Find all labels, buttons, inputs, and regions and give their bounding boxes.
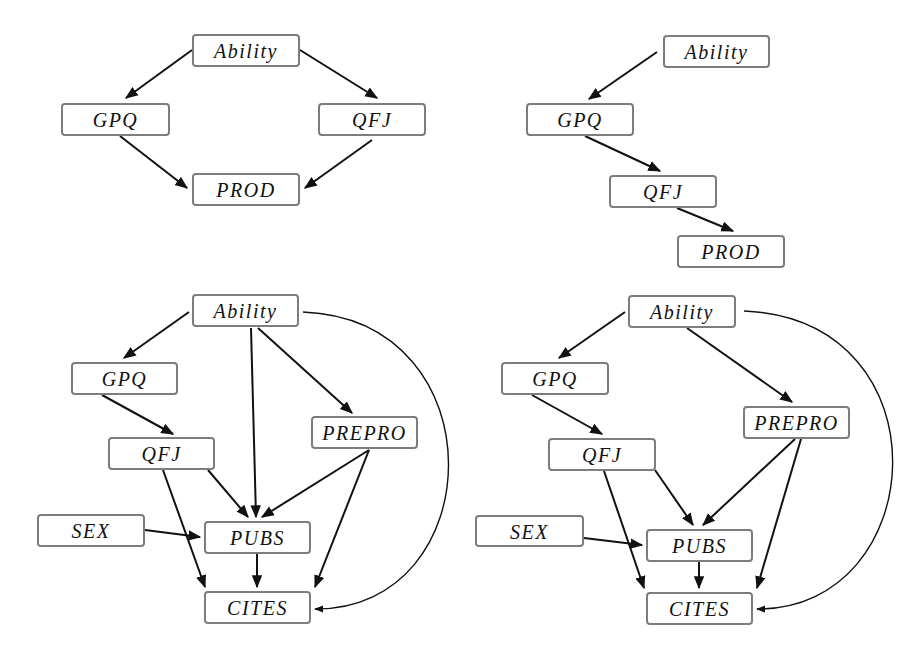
edge-ability-to-gpq-arrow-icon	[559, 312, 625, 358]
edge-prepro-to-pubs-arrow-icon	[703, 439, 795, 525]
edge-gpq-to-qfj-arrow-icon	[532, 395, 602, 434]
node-qfj: QFJ	[548, 438, 656, 471]
edge-qfj-to-pubs-arrow-icon	[655, 470, 693, 525]
node-sex: SEX	[475, 515, 584, 547]
node-label: PREPRO	[754, 413, 839, 433]
node-label: PUBS	[672, 536, 727, 556]
figure-canvas: AbilityGPQQFJPROD AbilityGPQQFJPROD Abil…	[0, 0, 923, 651]
edge-ability-to-prepro-arrow-icon	[687, 328, 792, 402]
edges-layer	[0, 0, 923, 651]
node-ability: Ability	[628, 295, 736, 328]
node-label: SEX	[510, 522, 549, 542]
node-cites: CITES	[646, 592, 753, 625]
edge-prepro-to-cites-arrow-icon	[757, 439, 801, 588]
node-label: QFJ	[582, 445, 622, 465]
edge-qfj-to-cites-arrow-icon	[604, 471, 644, 588]
node-label: Ability	[650, 302, 714, 322]
node-gpq: GPQ	[501, 362, 609, 395]
edge-sex-to-pubs-arrow-icon	[584, 538, 642, 545]
node-pubs: PUBS	[646, 529, 753, 562]
node-label: CITES	[669, 599, 730, 619]
node-prepro: PREPRO	[743, 406, 850, 439]
diagram-bottom-right: AbilityGPQPREPROQFJSEXPUBSCITES	[0, 0, 923, 651]
node-label: GPQ	[532, 369, 578, 389]
edge-ability-to-cites-arrow-icon	[744, 311, 893, 609]
